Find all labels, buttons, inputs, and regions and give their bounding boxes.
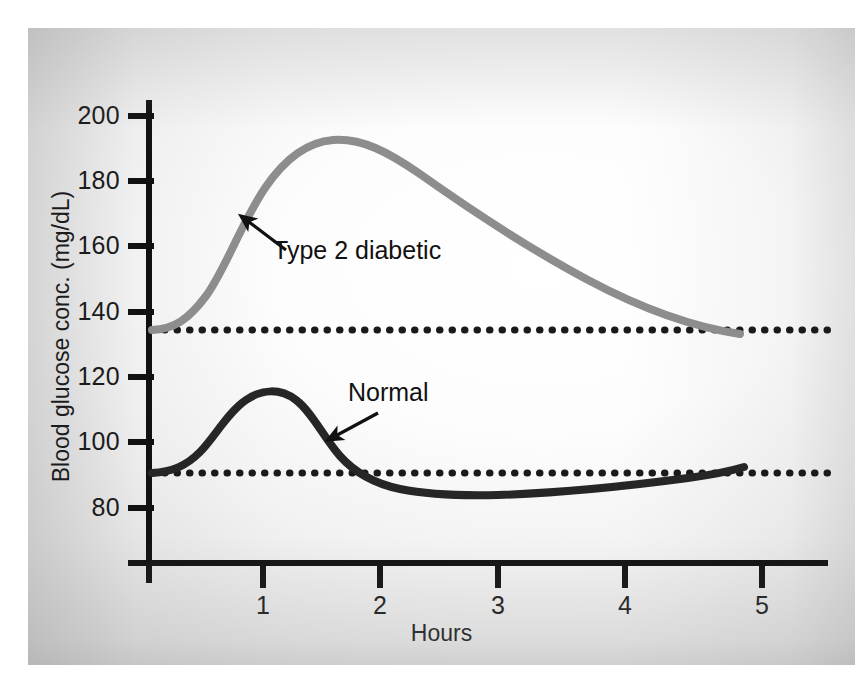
y-axis-title: Blood glucose conc. (mg/dL) (48, 157, 75, 517)
x-tick-label-3: 3 (478, 591, 518, 620)
y-tick-label-200: 200 (28, 101, 120, 130)
annotation-arrow-normal (328, 413, 378, 440)
figure-panel: 200 180 160 140 120 100 80 1 2 3 4 5 Blo… (28, 28, 855, 665)
annotation-label-normal: Normal (348, 378, 429, 407)
x-tick-label-5: 5 (742, 591, 782, 620)
x-tick-label-2: 2 (360, 591, 400, 620)
x-tick-label-4: 4 (605, 591, 645, 620)
x-tick-label-1: 1 (243, 591, 283, 620)
x-axis-ticks (149, 550, 762, 588)
series-line-normal (152, 391, 744, 495)
glucose-response-chart (28, 28, 855, 665)
annotation-label-type-2-diabetic: Type 2 diabetic (273, 236, 441, 265)
series-line-type-2-diabetic (152, 140, 740, 334)
x-axis-title: Hours (28, 620, 855, 647)
